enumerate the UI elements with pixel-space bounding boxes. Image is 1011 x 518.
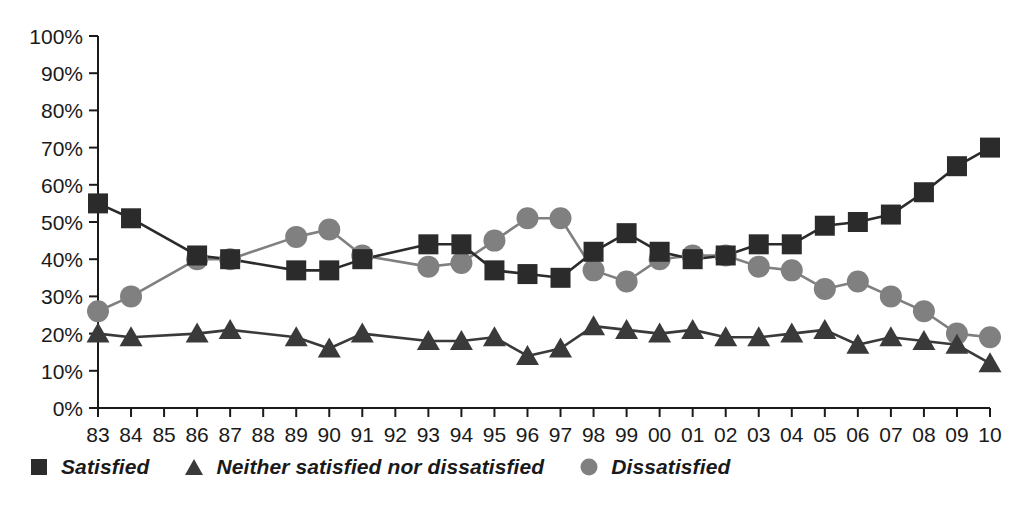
data-point-circle xyxy=(318,218,340,240)
data-point-square xyxy=(650,242,670,262)
data-point-square xyxy=(220,249,240,269)
data-point-triangle xyxy=(582,315,605,335)
data-point-triangle xyxy=(813,319,836,339)
data-point-triangle xyxy=(219,319,242,339)
x-axis-tick-label: 98 xyxy=(582,423,605,446)
x-axis-tick-label: 02 xyxy=(714,423,737,446)
data-point-circle xyxy=(847,271,869,293)
y-axis-tick-label: 0% xyxy=(53,397,83,420)
data-point-triangle xyxy=(483,326,506,346)
data-point-triangle xyxy=(351,323,374,343)
data-point-circle xyxy=(814,278,836,300)
data-point-square xyxy=(121,208,141,228)
data-point-triangle xyxy=(549,337,572,357)
data-point-circle xyxy=(781,259,803,281)
data-point-circle xyxy=(979,326,1001,348)
data-point-square xyxy=(451,234,471,254)
data-point-circle xyxy=(880,285,902,307)
x-axis-tick-label: 09 xyxy=(945,423,968,446)
y-axis-tick-label: 20% xyxy=(41,323,83,346)
y-axis-tick-label: 70% xyxy=(41,137,83,160)
x-axis-tick-label: 01 xyxy=(681,423,704,446)
data-point-square xyxy=(848,212,868,232)
data-point-circle xyxy=(516,207,538,229)
x-axis-tick-label: 84 xyxy=(119,423,143,446)
x-axis-tick-label: 83 xyxy=(86,423,109,446)
x-axis-tick-label: 86 xyxy=(185,423,208,446)
x-axis-tick-label: 07 xyxy=(879,423,902,446)
data-point-square xyxy=(782,234,802,254)
data-point-circle xyxy=(550,207,572,229)
data-point-circle xyxy=(483,230,505,252)
y-axis-tick-label: 30% xyxy=(41,285,83,308)
square-marker-icon xyxy=(28,456,50,478)
data-point-circle xyxy=(616,271,638,293)
x-axis-tick-label: 90 xyxy=(318,423,341,446)
data-point-circle xyxy=(450,252,472,274)
data-point-square xyxy=(551,268,571,288)
data-point-triangle xyxy=(879,326,902,346)
x-axis-tick-label: 04 xyxy=(780,423,804,446)
data-point-circle xyxy=(120,285,142,307)
x-axis-tick-label: 00 xyxy=(648,423,671,446)
legend-item-dissatisfied[interactable]: Dissatisfied xyxy=(578,455,730,479)
data-point-square xyxy=(88,193,108,213)
data-point-triangle xyxy=(318,337,341,357)
y-axis-tick-label: 100% xyxy=(29,25,83,48)
data-point-square xyxy=(187,245,207,265)
data-point-square xyxy=(352,249,372,269)
x-axis-tick-label: 92 xyxy=(384,423,407,446)
legend-item-satisfied[interactable]: Satisfied xyxy=(28,455,149,479)
x-axis-tick-label: 05 xyxy=(813,423,836,446)
x-axis-tick-label: 08 xyxy=(912,423,935,446)
data-point-square xyxy=(881,205,901,225)
data-point-circle xyxy=(87,300,109,322)
y-axis-tick-label: 50% xyxy=(41,211,83,234)
x-axis-tick-label: 85 xyxy=(152,423,175,446)
x-axis-tick-label: 03 xyxy=(747,423,770,446)
x-axis-tick-label: 06 xyxy=(846,423,869,446)
legend-label-satisfied: Satisfied xyxy=(61,455,149,479)
circle-marker-icon xyxy=(578,456,600,478)
x-axis-tick-label: 89 xyxy=(285,423,308,446)
data-point-square xyxy=(815,216,835,236)
data-point-circle xyxy=(285,226,307,248)
x-axis-tick-label: 99 xyxy=(615,423,638,446)
data-point-square xyxy=(914,182,934,202)
x-axis-tick-label: 87 xyxy=(218,423,241,446)
data-point-triangle xyxy=(681,319,704,339)
data-point-square xyxy=(683,249,703,269)
satisfaction-trend-chart: 0%10%20%30%40%50%60%70%80%90%100%8384858… xyxy=(0,0,1011,518)
x-axis-tick-label: 94 xyxy=(450,423,474,446)
chart-legend: Satisfied Neither satisfied nor dissatis… xyxy=(28,455,764,479)
data-point-square xyxy=(484,260,504,280)
data-point-square xyxy=(749,234,769,254)
x-axis-tick-label: 95 xyxy=(483,423,506,446)
data-point-square xyxy=(517,264,537,284)
x-axis-tick-label: 10 xyxy=(978,423,1001,446)
chart-plot-area: 0%10%20%30%40%50%60%70%80%90%100%8384858… xyxy=(0,0,1011,518)
data-point-square xyxy=(716,245,736,265)
x-axis-tick-label: 96 xyxy=(516,423,539,446)
data-point-circle xyxy=(913,300,935,322)
y-axis-tick-label: 90% xyxy=(41,62,83,85)
data-point-square xyxy=(319,260,339,280)
data-point-circle xyxy=(417,256,439,278)
x-axis-tick-label: 91 xyxy=(351,423,374,446)
y-axis-tick-label: 10% xyxy=(41,360,83,383)
data-point-square xyxy=(286,260,306,280)
data-point-circle xyxy=(583,259,605,281)
y-axis-tick-label: 60% xyxy=(41,174,83,197)
x-axis-tick-label: 93 xyxy=(417,423,440,446)
legend-item-neither[interactable]: Neither satisfied nor dissatisfied xyxy=(183,455,544,479)
y-axis-tick-label: 40% xyxy=(41,248,83,271)
legend-label-neither: Neither satisfied nor dissatisfied xyxy=(216,455,544,479)
data-point-circle xyxy=(748,256,770,278)
data-point-square xyxy=(947,156,967,176)
y-axis-tick-label: 80% xyxy=(41,99,83,122)
data-point-square xyxy=(617,223,637,243)
x-axis-tick-label: 97 xyxy=(549,423,572,446)
x-axis-tick-label: 88 xyxy=(252,423,275,446)
triangle-marker-icon xyxy=(183,456,205,478)
data-point-triangle xyxy=(979,352,1002,372)
